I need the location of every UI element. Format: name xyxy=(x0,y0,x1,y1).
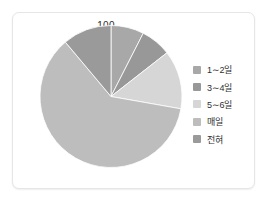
legend-item[interactable]: 3∼4일 xyxy=(193,78,255,95)
legend-swatch-icon xyxy=(193,100,201,108)
legend-item-label: 5∼6일 xyxy=(207,98,232,111)
pie-chart-svg xyxy=(13,23,199,188)
chart-legend: 1∼2일3∼4일5∼6일매일전혀 xyxy=(193,61,255,148)
legend-item[interactable]: 1∼2일 xyxy=(193,61,255,78)
pie-chart-plot-area xyxy=(13,23,199,188)
legend-item-label: 매일 xyxy=(207,115,223,128)
legend-swatch-icon xyxy=(193,66,201,74)
legend-item-label: 3∼4일 xyxy=(207,81,232,94)
legend-item[interactable]: 매일 xyxy=(193,113,255,130)
pie-slice-group xyxy=(40,26,182,168)
legend-swatch-icon xyxy=(193,83,201,91)
chart-card: 100 1∼2일3∼4일5∼6일매일전혀 xyxy=(12,12,255,189)
legend-item[interactable]: 5∼6일 xyxy=(193,96,255,113)
legend-item-label: 전혀 xyxy=(207,133,223,146)
legend-swatch-icon xyxy=(193,135,201,143)
legend-swatch-icon xyxy=(193,118,201,126)
legend-item[interactable]: 전혀 xyxy=(193,131,255,148)
legend-item-label: 1∼2일 xyxy=(207,63,232,76)
